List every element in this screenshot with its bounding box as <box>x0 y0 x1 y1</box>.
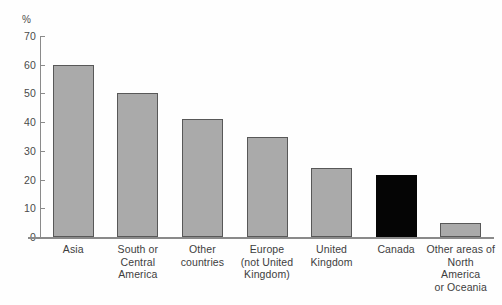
bar <box>311 168 352 237</box>
y-axis-tick-label: 40 <box>2 116 36 128</box>
plot-area <box>41 36 493 237</box>
y-axis-tick-label: 30 <box>2 145 36 157</box>
y-axis-tick-label: 60 <box>2 59 36 71</box>
x-axis-category-labels: AsiaSouth orCentralAmericaOthercountries… <box>41 243 493 303</box>
y-axis-tick-label: 70 <box>2 30 36 42</box>
bar <box>117 93 158 237</box>
bar <box>53 65 94 237</box>
x-axis-category-label: Other areas ofNorthAmericaor Oceania <box>422 243 499 293</box>
bar <box>247 137 288 238</box>
bar <box>182 119 223 237</box>
y-axis-tick-label: 10 <box>2 202 36 214</box>
x-axis-baseline <box>28 237 494 239</box>
bar-chart: % 706050403020100 AsiaSouth orCentralAme… <box>0 0 502 305</box>
y-axis-unit-label: % <box>22 14 31 25</box>
bar <box>376 175 417 237</box>
y-axis-tick-label: 20 <box>2 174 36 186</box>
bar <box>440 223 481 237</box>
y-axis-tick-label: 50 <box>2 87 36 99</box>
